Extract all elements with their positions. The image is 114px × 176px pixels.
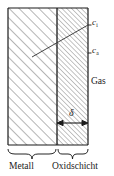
label-metal: Metall [9,162,34,172]
oxide-layer-diagram: ci ca Gas δ Metall Oxidschicht [0,0,114,176]
metal-brace [8,149,56,159]
oxide-brace [58,149,88,159]
label-oxide-layer: Oxidschicht [52,162,98,172]
label-concentration-outer: ca [92,46,98,55]
label-thickness-delta: δ [69,108,74,118]
metal-region [8,8,57,145]
label-concentration-inner: ci [92,18,98,27]
label-gas: Gas [91,77,106,87]
label-ci-subscript: i [96,22,98,28]
label-ca-subscript: a [96,50,98,56]
